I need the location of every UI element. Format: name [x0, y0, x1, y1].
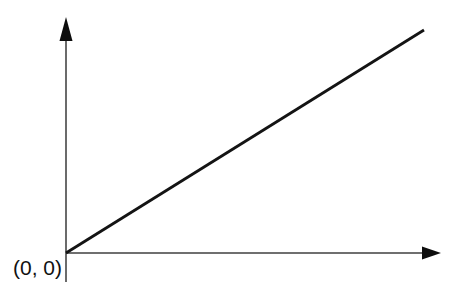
proportional-line — [66, 30, 424, 253]
coordinate-diagram: (0, 0) — [0, 0, 456, 298]
x-axis-arrow-icon — [422, 247, 441, 260]
axes-and-line-canvas — [0, 0, 456, 298]
y-axis-arrow-icon — [60, 17, 73, 41]
origin-label: (0, 0) — [13, 256, 62, 280]
